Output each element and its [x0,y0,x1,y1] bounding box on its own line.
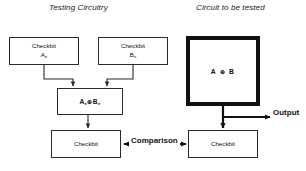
connector-b-to-xor [107,65,133,86]
box-device-under-test: A ⊕ B [186,36,260,106]
dut-operator: ⊕ [220,69,226,75]
xor-operand-a: A [79,98,84,105]
dut-expression: A ⊕ B [211,68,235,75]
box-checkbit-bottom-left: Checkbit [51,130,121,158]
xor-expression: Ae⊕Be [79,97,100,107]
diagram-canvas: Testing Circuitry Circuit to be tested C… [0,0,306,171]
xor-operand-b-subscript: e [98,101,101,106]
box-xor-expression: Ae⊕Be [57,88,123,115]
box-checkbit-b-line1: Checkbit [121,42,145,51]
title-circuit-to-be-tested: Circuit to be tested [196,3,265,12]
box-checkbit-bottom-left-label: Checkbit [74,140,98,149]
label-comparison: Comparison [131,136,178,145]
box-checkbit-a-line1: Checkbit [32,42,56,51]
box-checkbit-a-subscript: e [45,54,47,59]
box-checkbit-b-subscript: e [134,54,136,59]
dut-operand-b: B [229,68,235,75]
connector-layer [0,0,306,171]
box-checkbit-bottom-right: Checkbit [188,130,258,158]
connector-dut-output-bus [223,106,270,128]
box-checkbit-b: Checkbit Be [98,37,168,65]
box-checkbit-a: Checkbit Ae [9,37,79,65]
title-testing-circuitry: Testing Circuitry [49,3,108,12]
box-checkbit-a-line2: Ae [41,51,47,60]
box-checkbit-bottom-right-label: Checkbit [211,140,235,149]
connector-a-to-xor [44,65,73,86]
box-checkbit-b-line2: Be [130,51,136,60]
label-output: Output [273,108,299,117]
xor-operand-a-subscript: e [85,101,88,106]
dut-operand-a: A [211,68,217,75]
